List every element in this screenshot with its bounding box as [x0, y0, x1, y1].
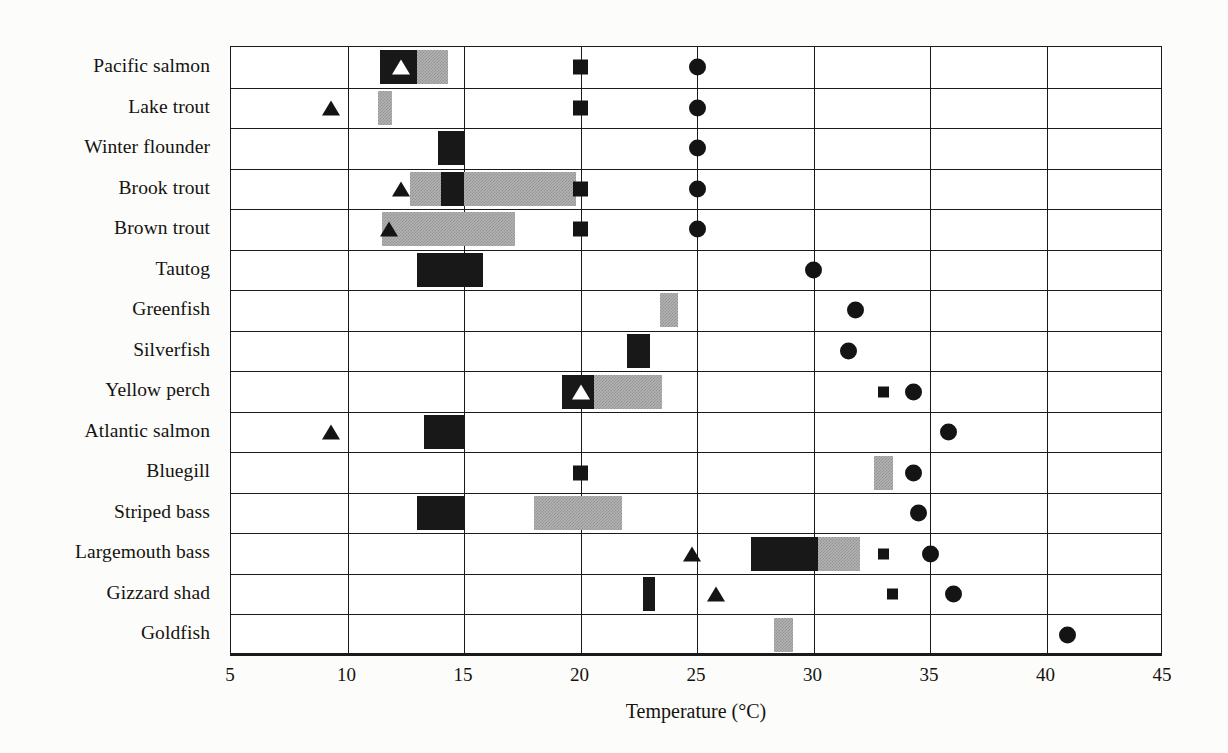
chart-row [231, 169, 1161, 210]
square-marker [573, 100, 588, 115]
temperature-tolerance-chart: Pacific salmonLake troutWinter flounderB… [0, 0, 1228, 753]
chart-row [231, 412, 1161, 453]
category-label: Gizzard shad [106, 573, 210, 614]
x-tick-label: 5 [225, 664, 235, 686]
category-axis-labels: Pacific salmonLake troutWinter flounderB… [0, 46, 222, 654]
circle-marker [922, 545, 939, 562]
category-label: Brook trout [118, 168, 210, 209]
x-tick-label: 40 [1036, 664, 1055, 686]
solid-range-bar [751, 537, 819, 571]
chart-row [231, 209, 1161, 250]
category-label: Brown trout [114, 208, 210, 249]
shaded-range-bar [660, 293, 679, 327]
category-label: Tautog [156, 249, 210, 290]
triangle-marker [322, 100, 340, 115]
category-label: Striped bass [114, 492, 210, 533]
x-tick-label: 35 [920, 664, 939, 686]
chart-row [231, 250, 1161, 291]
shaded-range-bar [417, 50, 447, 84]
circle-marker [1059, 626, 1076, 643]
circle-marker [689, 99, 706, 116]
x-tick-label: 25 [687, 664, 706, 686]
chart-row [231, 614, 1161, 655]
solid-range-bar [424, 415, 464, 449]
x-tick-label: 10 [337, 664, 356, 686]
solid-range-bar [417, 496, 464, 530]
white-triangle-marker [572, 384, 590, 399]
category-label: Largemouth bass [75, 532, 210, 573]
x-tick-label: 45 [1153, 664, 1172, 686]
solid-range-bar [643, 577, 655, 611]
shaded-range-bar [874, 456, 893, 490]
category-label: Atlantic salmon [84, 411, 210, 452]
chart-row [231, 290, 1161, 331]
square-marker [573, 222, 588, 237]
circle-marker [805, 261, 822, 278]
shaded-range-bar [818, 537, 860, 571]
category-label: Goldfish [141, 613, 210, 654]
circle-marker [847, 302, 864, 319]
category-label: Greenfish [132, 289, 210, 330]
circle-marker [689, 59, 706, 76]
category-label: Bluegill [146, 451, 210, 492]
x-axis: 51015202530354045 [230, 654, 1162, 657]
square-marker [573, 465, 588, 480]
circle-marker [945, 586, 962, 603]
category-label: Lake trout [128, 87, 210, 128]
solid-range-bar [441, 172, 464, 206]
chart-row [231, 371, 1161, 412]
triangle-marker [683, 546, 701, 561]
circle-marker [689, 221, 706, 238]
circle-marker [910, 505, 927, 522]
triangle-marker [392, 181, 410, 196]
x-axis-title: Temperature (°C) [230, 700, 1162, 723]
shaded-range-bar [464, 172, 576, 206]
square-marker [887, 589, 898, 600]
square-marker [878, 386, 889, 397]
category-label: Winter flounder [84, 127, 210, 168]
triangle-marker [322, 425, 340, 440]
chart-row [231, 128, 1161, 169]
chart-row [231, 88, 1161, 129]
x-tick-label: 15 [454, 664, 473, 686]
square-marker [573, 60, 588, 75]
category-label: Pacific salmon [93, 46, 210, 87]
square-marker [878, 548, 889, 559]
chart-row [231, 47, 1161, 88]
triangle-marker [707, 587, 725, 602]
chart-row [231, 533, 1161, 574]
triangle-marker [380, 222, 398, 237]
white-triangle-marker [392, 60, 410, 75]
circle-marker [689, 140, 706, 157]
chart-row [231, 493, 1161, 534]
circle-marker [905, 383, 922, 400]
square-marker [573, 181, 588, 196]
chart-row [231, 452, 1161, 493]
chart-row [231, 331, 1161, 372]
solid-range-bar [438, 131, 464, 165]
shaded-range-bar [410, 172, 440, 206]
shaded-range-bar [594, 375, 662, 409]
shaded-range-bar [774, 618, 793, 652]
solid-range-bar [417, 253, 482, 287]
shaded-range-bar [534, 496, 623, 530]
circle-marker [940, 424, 957, 441]
circle-marker [840, 342, 857, 359]
category-label: Yellow perch [105, 370, 210, 411]
category-label: Silverfish [133, 330, 210, 371]
chart-row [231, 574, 1161, 615]
shaded-range-bar [382, 212, 515, 246]
circle-marker [689, 180, 706, 197]
x-tick-label: 30 [803, 664, 822, 686]
solid-range-bar [627, 334, 650, 368]
shaded-range-bar [378, 91, 392, 125]
plot-area [230, 46, 1162, 654]
x-tick-label: 20 [570, 664, 589, 686]
circle-marker [905, 464, 922, 481]
